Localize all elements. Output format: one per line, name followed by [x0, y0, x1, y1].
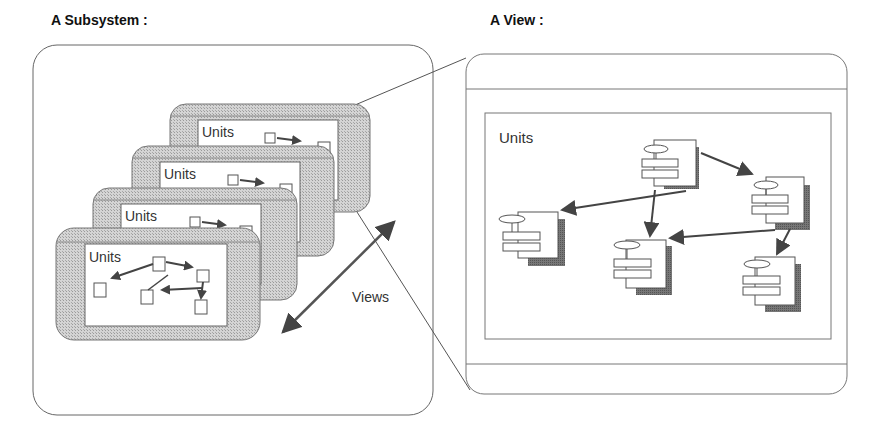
- units-label: Units: [125, 208, 157, 224]
- units-label: Units: [202, 124, 234, 140]
- units-panel-label: Units: [499, 129, 533, 146]
- diagram-canvas: Units Units Units Units: [0, 0, 879, 432]
- units-label: Units: [164, 166, 196, 182]
- units-label: Units: [89, 249, 121, 265]
- views-label: Views: [352, 289, 389, 305]
- view-card-1[interactable]: Units: [56, 228, 260, 340]
